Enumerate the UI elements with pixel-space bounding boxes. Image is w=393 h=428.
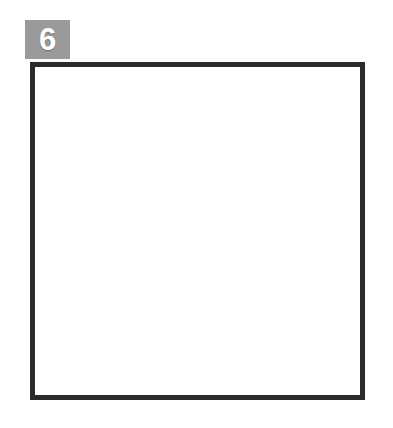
figure-panel: 6 (0, 0, 393, 428)
figure-number-badge: 6 (25, 20, 70, 59)
figure-number-label: 6 (39, 24, 56, 55)
artwork-frame (30, 62, 365, 400)
